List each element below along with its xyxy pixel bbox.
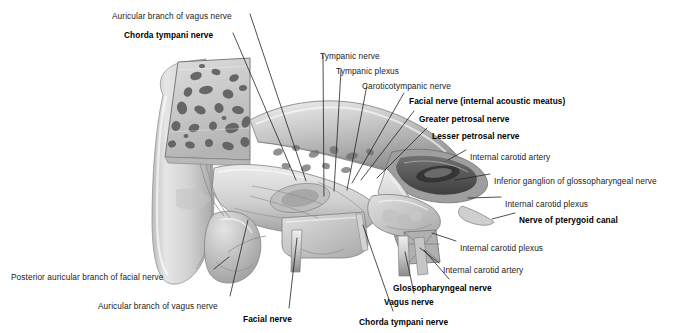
label-internal-carotid-artery-2: Internal carotid artery bbox=[443, 265, 523, 275]
leader-tympanic-nerve bbox=[323, 55, 324, 196]
label-inferior-ganglion-glosso: Inferior ganglion of glossopharyngeal ne… bbox=[494, 176, 657, 186]
leader-pterygoid-canal bbox=[492, 213, 515, 219]
mastoid-air-cells-cut-surface bbox=[165, 58, 252, 166]
anatomical-figure: Auricular branch of vagus nerveChorda ty… bbox=[0, 0, 673, 333]
label-chorda-tympani-bottom: Chorda tympani nerve bbox=[359, 317, 448, 327]
label-vagus-nerve: Vagus nerve bbox=[384, 297, 434, 307]
label-auricular-branch-vagus-top: Auricular branch of vagus nerve bbox=[112, 11, 232, 21]
label-tympanic-plexus: Tympanic plexus bbox=[336, 66, 399, 76]
label-tympanic-nerve: Tympanic nerve bbox=[320, 51, 380, 61]
label-internal-carotid-plexus-2: Internal carotid plexus bbox=[460, 243, 543, 253]
label-nerve-of-pterygoid-canal: Nerve of pterygoid canal bbox=[519, 215, 618, 225]
label-caroticotympanic-nerve: Caroticotympanic nerve bbox=[362, 81, 451, 91]
label-greater-petrosal-nerve: Greater petrosal nerve bbox=[419, 114, 509, 124]
styloid-process bbox=[204, 211, 260, 283]
label-auricular-branch-vagus-bot: Auricular branch of vagus nerve bbox=[98, 301, 218, 311]
illustration-canvas bbox=[0, 0, 673, 333]
label-facial-nerve-bottom: Facial nerve bbox=[243, 314, 292, 324]
leader-auricular-vagus-top bbox=[250, 14, 306, 181]
label-lesser-petrosal-nerve: Lesser petrosal nerve bbox=[432, 131, 520, 141]
label-glossopharyngeal-nerve: Glossopharyngeal nerve bbox=[393, 283, 492, 293]
label-internal-carotid-plexus-1: Internal carotid plexus bbox=[505, 199, 588, 209]
label-chorda-tympani-top: Chorda tympani nerve bbox=[124, 30, 213, 40]
label-facial-nerve-iam: Facial nerve (internal acoustic meatus) bbox=[409, 96, 565, 106]
label-internal-carotid-artery-1: Internal carotid artery bbox=[470, 152, 550, 162]
label-posterior-auricular-branch: Posterior auricular branch of facial ner… bbox=[11, 272, 163, 282]
